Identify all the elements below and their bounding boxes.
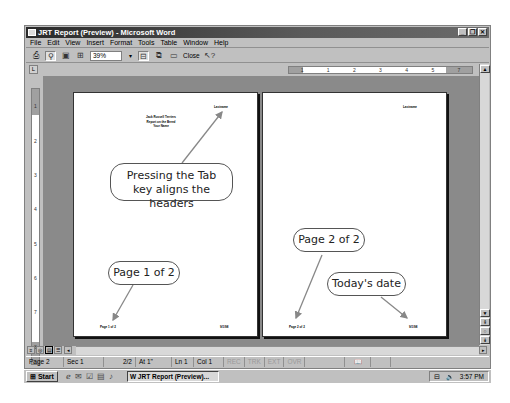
taskbar-word-item[interactable]: W JRT Report (Preview)... <box>127 371 219 382</box>
callout-page-1-of-2: Page 1 of 2 <box>108 261 180 285</box>
volume-icon[interactable]: 🔈 <box>446 373 454 381</box>
clock[interactable]: 3:57 PM <box>460 373 484 380</box>
office-assistant-icon[interactable]: ♪ <box>109 372 113 381</box>
outlook-icon[interactable]: ✉ <box>75 372 82 381</box>
channels-icon[interactable]: ▤ <box>97 372 105 381</box>
start-label: Start <box>38 373 54 380</box>
network-icon[interactable]: ⊟ <box>434 373 440 381</box>
start-button[interactable]: ⊞ Start <box>26 371 58 382</box>
task-item-label: JRT Report (Preview)... <box>138 373 209 380</box>
callout-line: key aligns the headers <box>111 183 232 211</box>
callout-line: Pressing the Tab <box>111 169 232 183</box>
windows-logo-icon: ⊞ <box>30 373 36 380</box>
word-doc-icon: W <box>130 373 136 380</box>
callout-tab-aligns-headers: Pressing the Tab key aligns the headers <box>110 163 233 201</box>
taskbar: ⊞ Start ℯ ✉ ☑ ▤ ♪ W JRT Report (Preview)… <box>24 369 491 383</box>
callout-page-2-of-2: Page 2 of 2 <box>293 228 365 252</box>
system-tray: ⊟ 🔈 3:57 PM <box>429 371 489 382</box>
desktop-icon[interactable]: ☑ <box>86 372 93 381</box>
browser-icon[interactable]: ℯ <box>66 372 71 381</box>
callout-arrows <box>0 0 510 403</box>
callout-todays-date: Today's date <box>327 272 406 296</box>
quick-launch: ℯ ✉ ☑ ▤ ♪ <box>66 372 113 381</box>
